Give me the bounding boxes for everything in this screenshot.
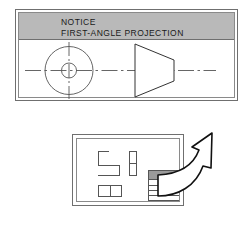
title-block bbox=[148, 170, 179, 201]
notice-subtitle: FIRST-ANGLE PROJECTION bbox=[61, 29, 184, 38]
drawing-sheet bbox=[72, 134, 184, 206]
title-block-header-cell bbox=[149, 171, 179, 180]
notice-panel: NOTICE FIRST-ANGLE PROJECTION bbox=[15, 9, 238, 101]
first-angle-projection-symbol bbox=[19, 40, 236, 101]
truncated-cone-view bbox=[135, 44, 174, 97]
notice-banner: NOTICE FIRST-ANGLE PROJECTION bbox=[19, 13, 234, 40]
drawing-sheet-inner-frame bbox=[76, 138, 180, 202]
title-block-rule bbox=[149, 190, 179, 191]
title-block-rule bbox=[149, 185, 179, 186]
notice-panel-inner-frame: NOTICE FIRST-ANGLE PROJECTION bbox=[18, 12, 235, 98]
title-block-rule bbox=[149, 200, 179, 201]
projection-symbol-area bbox=[19, 40, 234, 97]
title-block-rule bbox=[149, 195, 179, 196]
vertical-bar-divider bbox=[129, 163, 137, 164]
wide-rectangle-divider bbox=[110, 185, 111, 197]
notice-title: NOTICE bbox=[61, 18, 96, 27]
l-shaped-block-horizontal-leg bbox=[98, 165, 120, 176]
illustration-canvas: NOTICE FIRST-ANGLE PROJECTION bbox=[0, 0, 251, 237]
